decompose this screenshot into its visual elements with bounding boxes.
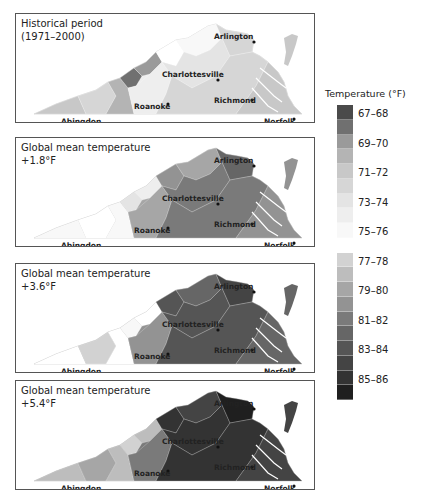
city-label: Abingdon — [61, 484, 101, 489]
panel-title: Global mean temperature+3.6°F — [21, 267, 150, 293]
legend-swatch — [337, 208, 353, 223]
legend-swatch — [337, 223, 353, 238]
legend-swatch — [337, 341, 353, 356]
city-label: Abingdon — [61, 241, 101, 246]
city-label: Abingdon — [61, 367, 101, 372]
city-label: Richmond — [214, 220, 256, 229]
legend-swatch — [337, 371, 353, 386]
city-label: Norfolk — [264, 367, 296, 372]
county-region — [34, 96, 86, 114]
legend-swatch — [337, 120, 353, 135]
panel-title-line1: Historical period — [21, 17, 103, 30]
legend-label: 77–78 — [358, 256, 388, 267]
panel-title: Global mean temperature+5.4°F — [21, 384, 150, 410]
legend-label: 85–86 — [358, 374, 388, 385]
county-region — [34, 463, 86, 481]
map-panel: Global mean temperature+1.8°FArlingtonCh… — [15, 137, 315, 247]
legend-swatch — [337, 135, 353, 150]
eastern-shore — [284, 401, 298, 433]
city-label: Arlington — [214, 32, 253, 41]
eastern-shore — [284, 34, 298, 66]
legend-swatch — [337, 385, 353, 400]
legend-label: 67–68 — [358, 108, 388, 119]
city-label: Abingdon — [61, 117, 101, 122]
city-label: Roanoke — [134, 469, 170, 478]
map-panel: Historical period(1971–2000)ArlingtonCha… — [15, 13, 315, 123]
city-label: Norfolk — [264, 117, 296, 122]
map-panel: Global mean temperature+5.4°FArlingtonCh… — [15, 380, 315, 490]
legend-label: 71–72 — [358, 167, 388, 178]
panel-title: Global mean temperature+1.8°F — [21, 141, 150, 167]
legend-swatch — [337, 297, 353, 312]
county-region — [34, 346, 86, 364]
map-panel: Global mean temperature+3.6°FArlingtonCh… — [15, 263, 315, 373]
city-label: Charlottesville — [162, 70, 224, 79]
panel-title-line1: Global mean temperature — [21, 267, 150, 280]
legend-swatch — [337, 238, 353, 253]
legend-label: 83–84 — [358, 344, 388, 355]
legend-label: 79–80 — [358, 285, 388, 296]
legend-swatch — [337, 105, 353, 120]
legend-color-bar — [337, 105, 353, 400]
panel-title-line2: (1971–2000) — [21, 30, 103, 43]
city-label: Charlottesville — [162, 194, 224, 203]
legend-label: 69–70 — [358, 138, 388, 149]
legend-swatch — [337, 149, 353, 164]
panel-title-line2: +3.6°F — [21, 280, 150, 293]
city-label: Norfolk — [264, 241, 296, 246]
legend-label: 73–74 — [358, 197, 388, 208]
city-label: Arlington — [214, 399, 253, 408]
city-label: Arlington — [214, 282, 253, 291]
city-label: Roanoke — [134, 352, 170, 361]
city-label: Charlottesville — [162, 320, 224, 329]
legend-swatch — [337, 164, 353, 179]
legend-swatch — [337, 267, 353, 282]
eastern-shore — [284, 284, 298, 316]
panel-title-line2: +1.8°F — [21, 154, 150, 167]
city-label: Charlottesville — [162, 437, 224, 446]
legend-label: 81–82 — [358, 315, 388, 326]
panel-title: Historical period(1971–2000) — [21, 17, 103, 43]
county-region — [34, 220, 86, 238]
legend-swatch — [337, 356, 353, 371]
city-label: Richmond — [214, 346, 256, 355]
legend-swatch — [337, 194, 353, 209]
city-label: Richmond — [214, 96, 256, 105]
city-label: Roanoke — [134, 226, 170, 235]
legend-title: Temperature (°F) — [325, 88, 406, 99]
legend-swatch — [337, 282, 353, 297]
city-label: Roanoke — [134, 102, 170, 111]
panel-title-line1: Global mean temperature — [21, 384, 150, 397]
legend-swatch — [337, 326, 353, 341]
legend-swatch — [337, 312, 353, 327]
legend-label: 75–76 — [358, 226, 388, 237]
panel-title-line2: +5.4°F — [21, 397, 150, 410]
city-label: Richmond — [214, 463, 256, 472]
city-label: Arlington — [214, 156, 253, 165]
legend-swatch — [337, 179, 353, 194]
eastern-shore — [284, 158, 298, 190]
legend-swatch — [337, 253, 353, 268]
panel-title-line1: Global mean temperature — [21, 141, 150, 154]
city-label: Norfolk — [264, 484, 296, 489]
